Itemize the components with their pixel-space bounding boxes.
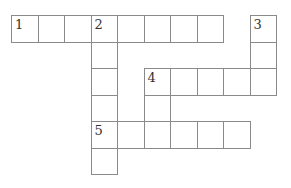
crossword-cell[interactable]: 2	[91, 15, 119, 43]
crossword-cell[interactable]: 3	[250, 15, 278, 43]
crossword-cell[interactable]	[223, 121, 251, 149]
crossword-cell[interactable]	[144, 95, 172, 123]
crossword-cell[interactable]	[91, 95, 119, 123]
crossword-grid: 12345	[0, 0, 291, 188]
crossword-cell[interactable]	[170, 68, 198, 96]
crossword-cell[interactable]	[250, 42, 278, 70]
crossword-cell[interactable]	[64, 15, 92, 43]
crossword-cell[interactable]: 4	[144, 68, 172, 96]
crossword-cell[interactable]	[250, 68, 278, 96]
crossword-cell[interactable]	[197, 121, 225, 149]
crossword-cell[interactable]	[170, 15, 198, 43]
crossword-cell[interactable]	[91, 148, 119, 176]
crossword-cell[interactable]: 5	[91, 121, 119, 149]
crossword-cell[interactable]	[144, 121, 172, 149]
crossword-cell[interactable]	[91, 42, 119, 70]
crossword-cell[interactable]	[197, 68, 225, 96]
clue-number: 3	[254, 18, 262, 31]
crossword-cell[interactable]	[223, 68, 251, 96]
crossword-cell[interactable]: 1	[11, 15, 39, 43]
clue-number: 5	[95, 124, 103, 137]
clue-number: 4	[148, 71, 156, 84]
crossword-cell[interactable]	[91, 68, 119, 96]
clue-number: 1	[15, 18, 23, 31]
crossword-cell[interactable]	[170, 121, 198, 149]
crossword-cell[interactable]	[197, 15, 225, 43]
crossword-cell[interactable]	[38, 15, 66, 43]
crossword-cell[interactable]	[117, 15, 145, 43]
crossword-cell[interactable]	[117, 121, 145, 149]
crossword-cell[interactable]	[144, 15, 172, 43]
clue-number: 2	[95, 18, 103, 31]
